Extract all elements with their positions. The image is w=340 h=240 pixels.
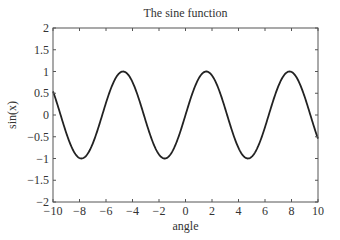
y-tick-label: 1.5 bbox=[34, 43, 49, 57]
x-tick-label: 8 bbox=[289, 204, 295, 218]
y-tick-label: −2 bbox=[36, 195, 49, 209]
y-tick-label: −1 bbox=[36, 152, 49, 166]
y-axis-label: sin(x) bbox=[5, 101, 20, 129]
x-tick-label: 2 bbox=[209, 204, 215, 218]
sine-chart: −10−8−6−4−20246810−2−1.5−1−0.500.511.52 bbox=[0, 0, 340, 240]
x-tick-label: 6 bbox=[262, 204, 268, 218]
y-tick-label: 1 bbox=[43, 65, 49, 79]
y-tick-label: 0.5 bbox=[34, 86, 49, 100]
y-tick-label: 2 bbox=[43, 21, 49, 35]
x-tick-label: −6 bbox=[100, 204, 113, 218]
x-tick-label: 10 bbox=[312, 204, 324, 218]
y-tick-label: −0.5 bbox=[27, 130, 49, 144]
x-tick-label: 4 bbox=[236, 204, 242, 218]
x-axis-label: angle bbox=[53, 219, 318, 234]
x-tick-label: −2 bbox=[153, 204, 166, 218]
y-tick-label: −1.5 bbox=[27, 173, 49, 187]
sine-curve bbox=[53, 72, 318, 159]
x-tick-label: 0 bbox=[183, 204, 189, 218]
x-tick-label: −4 bbox=[126, 204, 139, 218]
x-tick-label: −8 bbox=[73, 204, 86, 218]
y-tick-label: 0 bbox=[43, 108, 49, 122]
chart-title: The sine function bbox=[53, 6, 318, 21]
